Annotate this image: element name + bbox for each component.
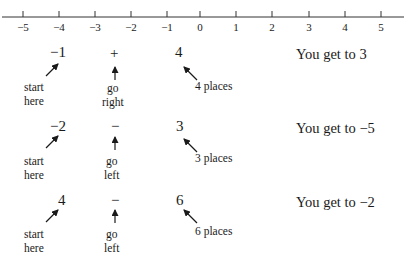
- operator: −: [111, 193, 119, 208]
- operator: −: [111, 119, 119, 134]
- tick-label: −3: [89, 22, 101, 33]
- tick-label: −4: [53, 22, 65, 33]
- start-label: start here: [24, 227, 44, 255]
- tick-label: 4: [342, 22, 348, 33]
- start-label: start here: [24, 154, 44, 182]
- start-arrow-1: [46, 64, 58, 76]
- start-arrow-3: [46, 210, 58, 222]
- places-label: 6 places: [195, 224, 232, 238]
- places-arrow-3: [184, 210, 197, 223]
- result-text: You get to 3: [296, 47, 367, 62]
- start-label: start here: [24, 80, 44, 108]
- amount: 3: [176, 119, 184, 134]
- start-value: 4: [58, 193, 66, 208]
- tick-label: 2: [269, 22, 275, 33]
- amount: 6: [176, 193, 184, 208]
- places-label: 4 places: [195, 79, 232, 93]
- tick-label: 5: [378, 22, 384, 33]
- tick-label: 3: [306, 22, 312, 33]
- direction-label: go left: [104, 227, 119, 255]
- tick-label: −1: [161, 22, 173, 33]
- result-text: You get to −2: [296, 195, 375, 210]
- start-value: −1: [50, 45, 66, 60]
- tick-label: −5: [17, 22, 29, 33]
- tick-label: 0: [197, 22, 203, 33]
- tick-label: 1: [233, 22, 239, 33]
- start-value: −2: [50, 119, 66, 134]
- amount: 4: [175, 45, 183, 60]
- operator: +: [110, 46, 118, 61]
- start-arrow-2: [46, 136, 58, 148]
- places-label: 3 places: [195, 151, 232, 165]
- number-line: [2, 11, 404, 17]
- direction-label: go right: [102, 81, 124, 109]
- tick-label: −2: [125, 22, 137, 33]
- result-text: You get to −5: [296, 121, 375, 136]
- direction-label: go left: [104, 154, 119, 182]
